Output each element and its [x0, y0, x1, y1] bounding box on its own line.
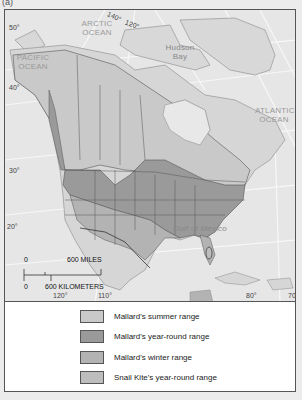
legend-item-snail-kite: Snail Kite's year-round range	[80, 369, 217, 385]
scale-km-zero: 0	[24, 283, 28, 290]
lat-50-label: 50°	[9, 24, 20, 31]
map-legend: Mallard's summer range Mallard's year-ro…	[4, 302, 296, 392]
scale-miles-label: 600 MILES	[67, 256, 102, 263]
lon-120-bottom-label: 120°	[53, 292, 67, 299]
lat-30-label: 30°	[9, 167, 20, 174]
arctic-ocean-label: ARCTIC OCEAN	[77, 19, 117, 37]
atlantic-ocean-label: ATLANTIC OCEAN	[255, 106, 293, 124]
scale-miles-zero: 0	[24, 256, 28, 263]
snail-kite-range-swatch	[80, 371, 104, 384]
figure-label: (a)	[2, 0, 13, 7]
legend-label: Mallard's year-round range	[114, 332, 209, 341]
winter-range-swatch	[80, 351, 104, 364]
pacific-ocean-label: PACIFIC OCEAN	[13, 53, 53, 71]
lon-70-label: 70°	[288, 292, 296, 299]
lat-20-label: 20°	[7, 223, 18, 230]
lon-80-label: 80°	[246, 292, 257, 299]
lat-40-label: 40°	[9, 84, 20, 91]
legend-label: Mallard's winter range	[114, 353, 192, 362]
scale-km-label: 600 KILOMETERS	[45, 283, 104, 290]
lon-110-label: 110°	[98, 292, 112, 299]
legend-label: Snail Kite's year-round range	[114, 373, 217, 382]
legend-item-summer: Mallard's summer range	[80, 308, 200, 324]
range-map: ARCTIC OCEAN Hudson Bay PACIFIC OCEAN AT…	[4, 9, 296, 302]
summer-range-swatch	[80, 310, 104, 323]
gulf-of-mexico-label: Gulf of Mexico	[170, 224, 230, 233]
scale-bar-graphic	[24, 269, 101, 281]
legend-item-winter: Mallard's winter range	[80, 349, 192, 365]
legend-item-year-round: Mallard's year-round range	[80, 328, 209, 344]
year-round-range-swatch	[80, 330, 104, 343]
legend-label: Mallard's summer range	[114, 312, 200, 321]
hudson-bay-label: Hudson Bay	[165, 43, 195, 61]
